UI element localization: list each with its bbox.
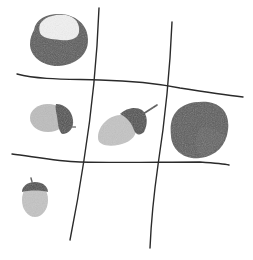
chestnut-middle-right (171, 102, 229, 158)
tic-tac-toe-board (0, 0, 253, 260)
chestnut-top-left (30, 14, 88, 66)
acorn-center (98, 105, 157, 146)
grid-line-horizontal-1 (17, 74, 243, 97)
acorn-bottom-left (22, 178, 48, 217)
acorn-middle-left (30, 104, 76, 134)
grid-line-vertical-2 (150, 22, 172, 248)
